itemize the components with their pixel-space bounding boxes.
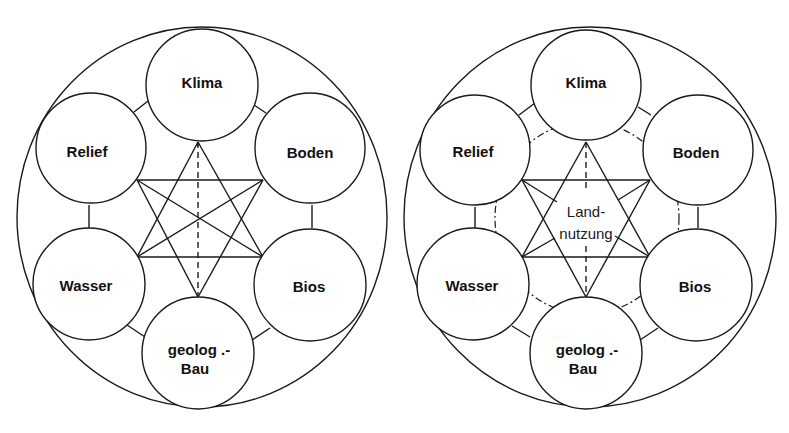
- label-klima: Klima: [182, 74, 224, 91]
- label-boden: Boden: [287, 144, 334, 161]
- diagram-canvas: Klima Relief Boden Wasser Bios geolog .-…: [0, 0, 789, 433]
- connector-wasser-geolog: [127, 325, 145, 337]
- label-boden: Boden: [673, 144, 720, 161]
- label-landnutzung-line2: nutzung: [559, 225, 612, 242]
- label-wasser: Wasser: [60, 277, 113, 294]
- label-klima: Klima: [566, 74, 608, 91]
- connector-klima-boden: [254, 105, 266, 113]
- connector-klima-relief: [519, 103, 535, 115]
- label-geolog-line1: geolog .-: [556, 341, 619, 358]
- label-relief: Relief: [67, 143, 109, 160]
- label-relief: Relief: [453, 143, 495, 160]
- label-geolog-line2: Bau: [181, 360, 209, 377]
- connector-bios-geolog: [252, 328, 270, 340]
- connector-klima-relief: [134, 101, 148, 112]
- label-landnutzung-line1: Land-: [567, 203, 605, 220]
- label-geolog-line2: Bau: [569, 360, 597, 377]
- label-wasser: Wasser: [446, 277, 499, 294]
- label-geolog-line1: geolog .-: [168, 341, 231, 358]
- connector-bios-geolog: [640, 328, 658, 340]
- label-bios: Bios: [293, 278, 326, 295]
- label-bios: Bios: [679, 278, 712, 295]
- connector-wasser-geolog: [512, 326, 530, 337]
- interconnection-lines: [137, 142, 263, 297]
- connector-klima-boden: [638, 107, 651, 115]
